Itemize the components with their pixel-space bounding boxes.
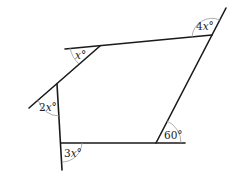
angle-label-3x: 3x° [64,147,82,159]
edge-top [65,35,212,49]
pentagon-exterior-angles-diagram: 4x° x° 2x° 3x° 60° [0,0,235,178]
angle-label-4x: 4x° [196,20,214,32]
edge-right-extended [156,8,226,143]
edge-upper-left-extended [29,46,100,108]
angle-label-x: x° [75,49,86,61]
edge-left-extended [57,84,62,170]
angle-label-60: 60° [164,129,183,141]
angle-label-2x: 2x° [39,101,57,113]
